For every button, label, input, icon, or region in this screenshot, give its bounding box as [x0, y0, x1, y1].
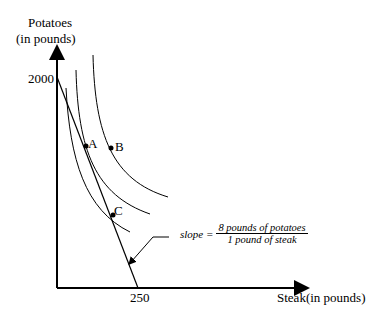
- point-a-label: A: [88, 136, 97, 151]
- point-b-marker: [109, 146, 114, 151]
- slope-annotation: slope = 8 pounds of potatoes 1 pound of …: [180, 222, 308, 245]
- point-c-label: C: [114, 203, 123, 218]
- x-axis-label: Steak(in pounds): [277, 290, 365, 305]
- y-axis-label-line1: Potatoes: [28, 15, 72, 30]
- x-intercept-label: 250: [130, 290, 150, 305]
- y-intercept-label: 2000: [28, 71, 54, 86]
- slope-prefix: slope =: [180, 228, 213, 240]
- slope-denominator: 1 pound of steak: [216, 234, 307, 245]
- diagram-canvas: [0, 0, 387, 319]
- slope-numerator: 8 pounds of potatoes: [216, 222, 307, 234]
- slope-pointer-line: [131, 237, 169, 262]
- y-axis-label-line2: (in pounds): [16, 31, 76, 46]
- point-b-label: B: [115, 139, 124, 154]
- indifference-curve-outer: [93, 55, 168, 197]
